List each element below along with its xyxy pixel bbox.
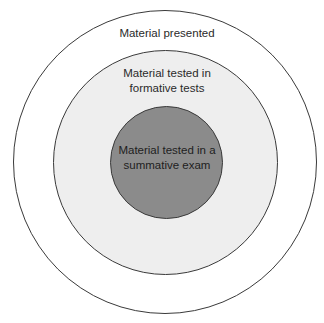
label-line: Material tested in a [100, 143, 234, 158]
concentric-circles-diagram: Material presented Material tested in fo… [0, 0, 324, 323]
label-formative-tests: Material tested in formative tests [100, 66, 234, 95]
label-material-presented: Material presented [100, 26, 234, 41]
label-summative-exam: Material tested in a summative exam [100, 143, 234, 172]
label-line: formative tests [100, 81, 234, 96]
label-line: summative exam [100, 158, 234, 173]
label-line: Material presented [100, 26, 234, 41]
label-line: Material tested in [100, 66, 234, 81]
